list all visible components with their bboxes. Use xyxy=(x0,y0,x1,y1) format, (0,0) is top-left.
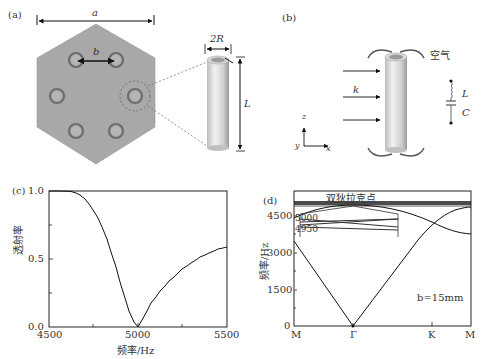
panel-d-plot xyxy=(0,0,483,359)
ytick-0: 0 xyxy=(284,320,290,331)
param-annotation: b=15mm xyxy=(417,292,463,303)
xtick-k: K xyxy=(428,329,435,340)
band-acoustic xyxy=(294,207,471,326)
inset-tick-5000: 5000 xyxy=(295,213,318,223)
xtick-m-right: M xyxy=(465,329,475,340)
xtick-m-left: M xyxy=(291,329,301,340)
ytick-1500: 1500 xyxy=(267,284,292,295)
dirac-point-annotation: 双狄拉克点 xyxy=(326,190,376,205)
y-axis-title: 频率/Hz xyxy=(256,243,271,280)
inset-tick-4950: 4950 xyxy=(295,224,318,234)
xtick-gamma: Γ xyxy=(350,329,357,340)
ytick-4500: 4500 xyxy=(267,210,292,221)
